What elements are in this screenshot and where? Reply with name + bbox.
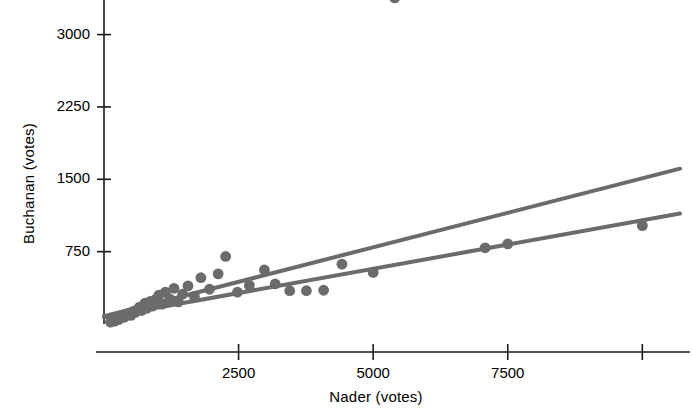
y-axis-tick-label: 750 xyxy=(20,242,90,259)
plot-canvas xyxy=(0,0,692,415)
without-outlier-fit xyxy=(104,214,680,318)
x-axis-tick-label: 7500 xyxy=(463,364,553,381)
y-axis-tick-label: 2250 xyxy=(20,97,90,114)
x-axis-tick-label: 5000 xyxy=(328,364,418,381)
data-point xyxy=(480,242,491,253)
data-point xyxy=(204,284,215,295)
axes-group xyxy=(96,0,690,360)
data-point xyxy=(301,285,312,296)
x-axis-tick-label: 2500 xyxy=(194,364,284,381)
scatter-plot-figure: Buchanan (votes) Nader (votes) 750150022… xyxy=(0,0,692,415)
data-point xyxy=(189,291,200,302)
data-point xyxy=(270,279,281,290)
data-point xyxy=(284,285,295,296)
data-point xyxy=(244,280,255,291)
y-axis-tick-label: 3000 xyxy=(20,25,90,42)
data-points-group xyxy=(105,0,648,327)
data-point xyxy=(318,285,329,296)
data-point xyxy=(183,280,194,291)
data-point xyxy=(259,265,270,276)
data-point xyxy=(195,272,206,283)
data-point xyxy=(213,268,224,279)
x-axis-title: Nader (votes) xyxy=(286,388,466,405)
data-point xyxy=(637,220,648,231)
data-point xyxy=(389,0,400,3)
data-point xyxy=(232,287,243,298)
data-point xyxy=(502,239,513,250)
y-axis-tick-label: 1500 xyxy=(20,169,90,186)
data-point xyxy=(368,267,379,278)
data-point xyxy=(337,259,348,270)
data-point xyxy=(220,251,231,262)
